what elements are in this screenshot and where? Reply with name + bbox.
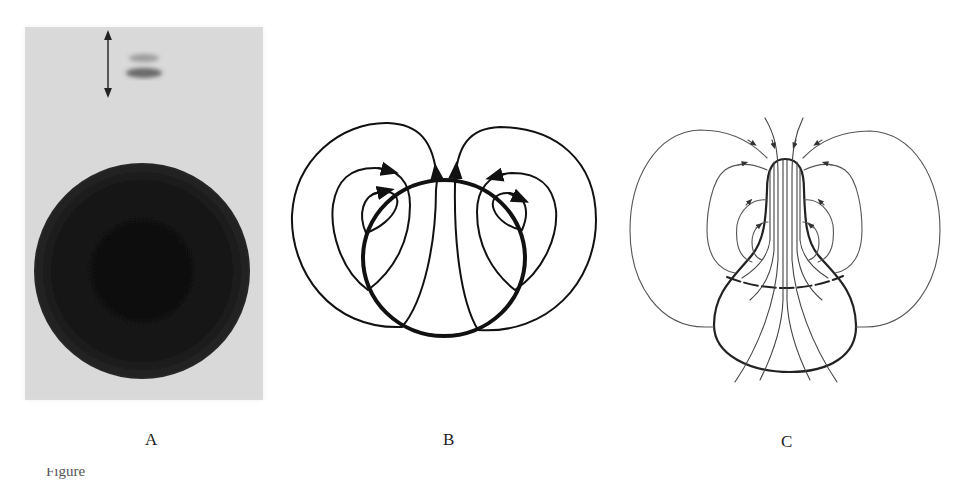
dark-disk bbox=[34, 163, 250, 379]
panel-label-c: C bbox=[781, 432, 792, 452]
pear-outline bbox=[714, 159, 856, 372]
panel-c-diagram bbox=[630, 118, 940, 382]
panel-label-b: B bbox=[443, 430, 454, 450]
dashed-equator bbox=[727, 276, 843, 288]
panel-label-a: A bbox=[145, 430, 157, 450]
panel-a-photo bbox=[25, 27, 263, 400]
circle-outline bbox=[363, 180, 525, 336]
panel-b-diagram bbox=[292, 123, 596, 336]
